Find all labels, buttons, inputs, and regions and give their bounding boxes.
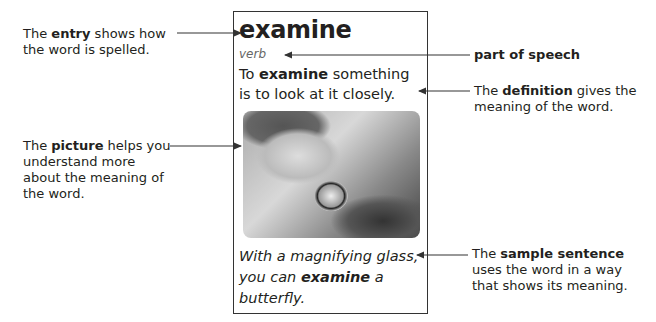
sample-headword: examine [301, 269, 370, 285]
dictionary-entry-card: examine verb To examine something is to … [233, 11, 428, 314]
callout-term: entry [51, 26, 90, 41]
definition-text: To [239, 66, 259, 82]
callout-text: The [23, 138, 51, 153]
callout-entry: The entry shows how the word is spelled. [23, 26, 183, 58]
callout-definition: The definition gives the meaning of the … [474, 83, 644, 115]
callout-text: The [472, 246, 500, 261]
callout-term: sample sentence [500, 246, 624, 261]
callout-sample-sentence: The sample sentence uses the word in a w… [472, 246, 652, 294]
callout-term: part of speech [474, 47, 580, 62]
callout-term: definition [502, 83, 572, 98]
headword: examine [239, 16, 351, 44]
callout-picture: The picture helps you understand more ab… [23, 138, 173, 202]
callout-part-of-speech: part of speech [474, 47, 644, 63]
definition: To examine something is to look at it cl… [239, 64, 424, 104]
callout-term: picture [51, 138, 103, 153]
entry-picture [243, 111, 420, 238]
callout-text: The [23, 26, 51, 41]
part-of-speech: verb [239, 47, 266, 61]
callout-text: The [474, 83, 502, 98]
callout-text: uses the word in a way that shows its me… [472, 262, 628, 293]
sample-sentence: With a magnifying glass, you can examine… [239, 246, 424, 309]
definition-headword: examine [259, 66, 328, 82]
